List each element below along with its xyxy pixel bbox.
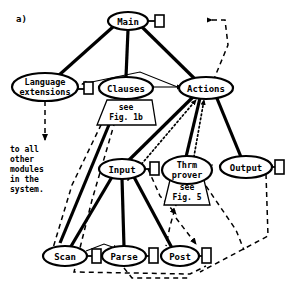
edge-actions-output xyxy=(216,96,241,157)
see-fig-5-line1: see xyxy=(180,183,195,192)
node-thrm-prover-label-line2: prover xyxy=(172,170,203,180)
node-langext-label-line2: extensions xyxy=(19,87,70,97)
see-fig-1b-line1: see xyxy=(119,103,134,112)
panel-label: a) xyxy=(16,14,27,24)
node-input[interactable]: Input xyxy=(99,159,159,179)
node-output-label: Output xyxy=(230,163,263,173)
edge-main-actions xyxy=(142,27,196,80)
node-parse-label: Parse xyxy=(110,252,138,262)
to-all-line-3: modules xyxy=(10,165,44,174)
node-input-port[interactable] xyxy=(150,162,159,175)
see-fig-1b-line2: Fig. 1b xyxy=(109,112,143,122)
node-output-port[interactable] xyxy=(275,160,284,174)
node-clauses-label: Clauses xyxy=(107,84,145,94)
thick-call-edges xyxy=(58,26,241,248)
node-post[interactable]: Post xyxy=(161,246,211,266)
node-clauses[interactable]: Clauses xyxy=(99,77,153,99)
node-parse-port[interactable] xyxy=(149,248,158,263)
edge-main-langext xyxy=(58,26,114,76)
node-langext-label-line1: Language xyxy=(25,77,66,87)
to-all-line-1: to all xyxy=(10,145,39,154)
see-fig-5-line2: Fig. 5 xyxy=(173,192,202,202)
node-scan-port[interactable] xyxy=(92,249,101,263)
figure-canvas: Main Language extensions Clauses Actions… xyxy=(0,0,288,292)
node-language-extensions[interactable]: Language extensions xyxy=(12,73,93,101)
edge-output-dash-down xyxy=(206,186,244,250)
edge-input-post xyxy=(134,177,172,248)
node-thrm-prover[interactable]: Thrm prover xyxy=(162,156,212,184)
node-thrm-prover-label-line1: Thrm xyxy=(177,160,197,170)
edge-actions-thrmprover xyxy=(186,98,200,157)
node-input-label: Input xyxy=(108,165,135,175)
node-post-label: Post xyxy=(169,252,191,262)
edge-fig5-dash-in xyxy=(176,218,196,244)
to-all-line-4: in the xyxy=(10,174,39,184)
node-scan-label: Scan xyxy=(54,252,76,262)
node-main[interactable]: Main xyxy=(108,12,164,30)
node-main-label: Main xyxy=(117,17,139,27)
node-actions[interactable]: Actions xyxy=(179,77,233,99)
edge-input-parse xyxy=(122,178,124,247)
edge-input-scan xyxy=(70,177,112,248)
node-post-port[interactable] xyxy=(202,248,211,263)
edge-actions-dash-mainport xyxy=(212,20,228,79)
node-actions-label: Actions xyxy=(187,84,225,94)
to-all-line-2: other xyxy=(10,155,34,164)
module-structure-diagram: Main Language extensions Clauses Actions… xyxy=(0,0,288,292)
node-parse[interactable]: Parse xyxy=(102,246,158,266)
node-langext-port[interactable] xyxy=(84,82,93,94)
node-output[interactable]: Output xyxy=(220,156,284,178)
to-all-modules-text: to all other modules in the system. xyxy=(10,145,44,194)
to-all-line-5: system. xyxy=(10,185,44,194)
node-scan[interactable]: Scan xyxy=(43,246,101,266)
edge-main-clauses xyxy=(126,30,128,77)
node-main-port[interactable] xyxy=(155,15,164,27)
